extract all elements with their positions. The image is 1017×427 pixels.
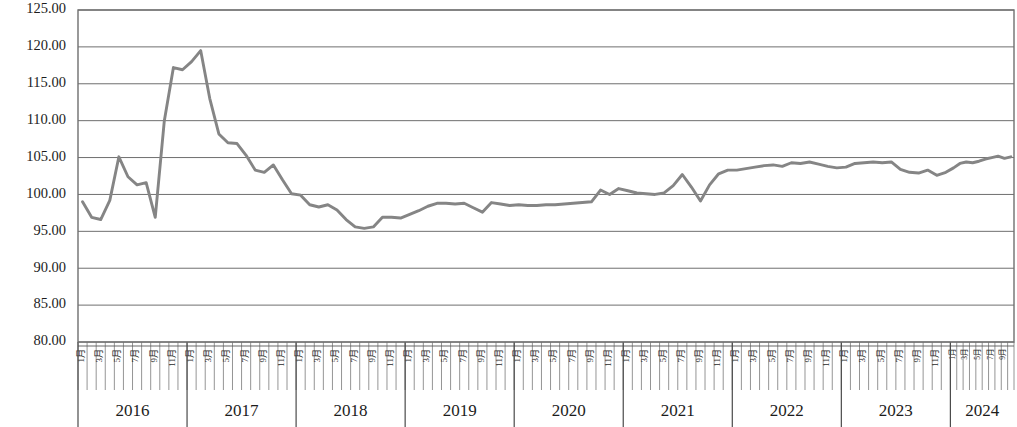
year-label: 2020 bbox=[552, 401, 586, 420]
month-tick-label: 11月 bbox=[930, 349, 940, 367]
month-tick-label: 9月 bbox=[149, 349, 159, 363]
month-tick-label: 3月 bbox=[530, 349, 540, 363]
month-tick-label: 7月 bbox=[458, 349, 468, 363]
month-tick-label: 11月 bbox=[712, 349, 722, 367]
month-tick-label: 9月 bbox=[694, 349, 704, 363]
month-tick-label: 7月 bbox=[240, 349, 250, 363]
month-tick-label: 9月 bbox=[912, 349, 922, 363]
month-tick-label: 7月 bbox=[676, 349, 686, 363]
year-label: 2024 bbox=[965, 401, 1000, 420]
y-tick-label: 105.00 bbox=[26, 148, 66, 164]
year-label: 2017 bbox=[225, 401, 260, 420]
y-tick-label: 90.00 bbox=[33, 259, 66, 275]
month-tick-label: 11月 bbox=[494, 349, 504, 367]
month-tick-label: 3月 bbox=[960, 349, 969, 360]
month-tick-label: 7月 bbox=[349, 349, 359, 363]
month-tick-label: 3月 bbox=[94, 349, 104, 363]
year-label: 2022 bbox=[770, 401, 804, 420]
month-tick-label: 11月 bbox=[167, 349, 177, 367]
month-tick-label: 11月 bbox=[603, 349, 613, 367]
month-tick-label: 5月 bbox=[767, 349, 777, 363]
month-tick-label: 9月 bbox=[803, 349, 813, 363]
month-tick-label: 9月 bbox=[998, 349, 1007, 360]
y-tick-label: 120.00 bbox=[26, 37, 66, 53]
month-tick-label: 5月 bbox=[112, 349, 122, 363]
month-tick-label: 3月 bbox=[421, 349, 431, 363]
data-series-line bbox=[83, 51, 1011, 229]
month-tick-label: 7月 bbox=[130, 349, 140, 363]
y-tick-label: 85.00 bbox=[33, 295, 66, 311]
month-tick-label: 5月 bbox=[330, 349, 340, 363]
month-tick-label: 11月 bbox=[276, 349, 286, 367]
month-tick-label: 5月 bbox=[973, 349, 982, 360]
month-tick-label: 9月 bbox=[476, 349, 486, 363]
y-axis-tick-labels: 125.00120.00115.00110.00105.00100.0095.0… bbox=[26, 0, 66, 348]
month-tick-label: 1月 bbox=[948, 349, 957, 360]
x-axis-ticks bbox=[78, 342, 1014, 390]
y-tick-label: 100.00 bbox=[26, 185, 66, 201]
month-tick-label: 9月 bbox=[585, 349, 595, 363]
month-tick-label: 3月 bbox=[748, 349, 758, 363]
y-tick-label: 115.00 bbox=[27, 74, 66, 90]
month-tick-label: 3月 bbox=[857, 349, 867, 363]
month-tick-label: 9月 bbox=[258, 349, 268, 363]
y-gridlines bbox=[78, 10, 1014, 342]
year-label: 2021 bbox=[661, 401, 695, 420]
plot-area-border bbox=[78, 10, 1014, 342]
month-tick-label: 3月 bbox=[203, 349, 213, 363]
month-tick-label: 5月 bbox=[658, 349, 668, 363]
month-tick-label: 11月 bbox=[821, 349, 831, 367]
month-tick-label: 5月 bbox=[548, 349, 558, 363]
year-label: 2023 bbox=[879, 401, 913, 420]
month-tick-label: 9月 bbox=[367, 349, 377, 363]
month-tick-label: 11月 bbox=[385, 349, 395, 367]
y-tick-label: 95.00 bbox=[33, 222, 66, 238]
month-tick-label: 5月 bbox=[221, 349, 231, 363]
month-tick-label: 5月 bbox=[439, 349, 449, 363]
y-tick-label: 110.00 bbox=[27, 111, 66, 127]
y-tick-label: 80.00 bbox=[33, 332, 66, 348]
month-tick-label: 3月 bbox=[639, 349, 649, 363]
year-label: 2016 bbox=[116, 401, 150, 420]
month-tick-label: 7月 bbox=[894, 349, 904, 363]
chart-container: 125.00120.00115.00110.00105.00100.0095.0… bbox=[0, 0, 1017, 427]
month-tick-label: 5月 bbox=[876, 349, 886, 363]
y-tick-label: 125.00 bbox=[26, 0, 66, 16]
line-chart: 125.00120.00115.00110.00105.00100.0095.0… bbox=[0, 0, 1017, 427]
month-tick-label: 7月 bbox=[785, 349, 795, 363]
month-tick-label: 7月 bbox=[986, 349, 995, 360]
month-tick-label: 3月 bbox=[312, 349, 322, 363]
month-tick-label: 7月 bbox=[567, 349, 577, 363]
year-label: 2019 bbox=[443, 401, 477, 420]
x-axis-year-labels: 201620172018201920202021202220232024 bbox=[116, 401, 1000, 420]
year-label: 2018 bbox=[334, 401, 368, 420]
